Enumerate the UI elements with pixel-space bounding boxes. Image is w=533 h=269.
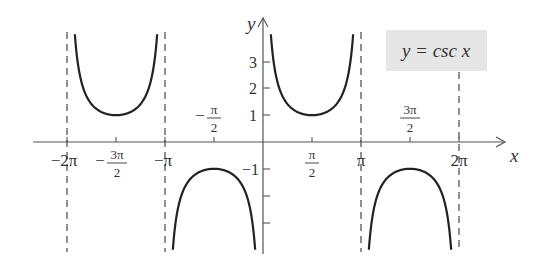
csc-branch-2 (271, 34, 353, 115)
x-tick-label-neg-pi-over-2: − π 2 (195, 102, 221, 135)
svg-text:3π: 3π (403, 102, 417, 117)
svg-text:π: π (211, 102, 218, 117)
svg-text:−: − (195, 106, 205, 125)
y-tick-label-neg1: −1 (242, 161, 259, 178)
y-tick-label-2: 2 (249, 80, 257, 97)
x-tick-label-neg-2pi: −2π (51, 151, 78, 170)
x-tick-label-3pi-over-2: 3π 2 (400, 102, 420, 135)
x-axis-label: x (509, 145, 519, 166)
svg-text:2: 2 (407, 120, 414, 135)
svg-text:−: − (95, 151, 105, 170)
x-tick-label-neg-pi: −π (154, 151, 173, 170)
x-tick-label-pi: π (357, 151, 366, 170)
csc-branch-0 (75, 34, 157, 115)
y-tick-label-1: 1 (249, 107, 257, 124)
svg-text:2: 2 (114, 165, 121, 180)
csc-branch-3 (369, 169, 451, 250)
svg-text:2: 2 (211, 120, 218, 135)
y-tick-label-3: 3 (249, 54, 257, 71)
y-axis-label: y (245, 13, 256, 34)
svg-text:2: 2 (309, 165, 316, 180)
csc-plot: y = csc x y x 3 2 1 −1 −2π −π π 2π − 3π … (0, 0, 533, 269)
x-tick-label-neg-3pi-over-2: − 3π 2 (95, 147, 127, 180)
x-tick-label-2pi: 2π (450, 151, 468, 170)
x-tick-label-pi-over-2: π 2 (305, 147, 319, 180)
csc-branch-1 (173, 169, 255, 250)
legend-text: y = csc x (400, 40, 471, 61)
svg-text:3π: 3π (110, 147, 124, 162)
svg-text:π: π (309, 147, 316, 162)
